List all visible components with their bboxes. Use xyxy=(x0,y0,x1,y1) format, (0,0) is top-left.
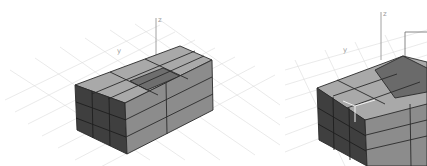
y-axis-label: y xyxy=(343,46,347,54)
box-model xyxy=(75,46,213,154)
viewport-right[interactable]: z y xyxy=(285,0,427,166)
z-axis-label: z xyxy=(383,10,387,18)
viewport-left[interactable]: z y xyxy=(0,0,280,166)
y-axis-label: y xyxy=(117,47,121,55)
viewport-right-canvas: z y xyxy=(285,0,427,166)
z-axis-label: z xyxy=(158,16,162,24)
viewport-left-canvas: z y xyxy=(0,0,280,166)
box-model xyxy=(317,56,427,166)
